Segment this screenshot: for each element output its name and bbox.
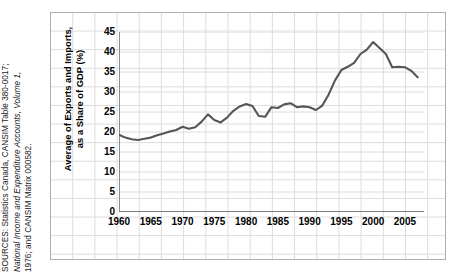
y-axis-tick-labels: 454035302520151050	[89, 32, 115, 212]
source-note-line-2: National Income and Expenditure Accounts…	[12, 72, 24, 272]
x-tick-label: 1960	[101, 216, 137, 228]
y-tick-label: 20	[93, 127, 115, 137]
x-tick-label: 2000	[355, 216, 391, 228]
x-tick-label: 1990	[292, 216, 328, 228]
chart-plot-svg	[119, 32, 424, 212]
x-axis-tick-labels: 1960196519701975198019851990199520002005	[119, 216, 424, 230]
y-tick-label: 35	[93, 67, 115, 77]
x-tick-label: 1965	[133, 216, 169, 228]
y-tick-label: 25	[93, 107, 115, 117]
x-tick-label: 1970	[165, 216, 201, 228]
y-axis-title: Average of Exports and Imports, as a Sha…	[59, 12, 89, 223]
x-tick-label: 1980	[228, 216, 264, 228]
chart-frame: Average of Exports and Imports, as a Sha…	[50, 12, 446, 260]
chart-figure: SOURCES: Statistics Canada, CANSIM Table…	[0, 0, 449, 274]
source-note: SOURCES: Statistics Canada, CANSIM Table…	[0, 0, 48, 274]
y-axis-title-line-2: as a Share of GDP (%)	[74, 50, 86, 148]
y-tick-label: 10	[93, 167, 115, 177]
x-tick-label: 1995	[323, 216, 359, 228]
source-note-line-1: SOURCES: Statistics Canada, CANSIM Table…	[0, 64, 12, 273]
y-tick-label: 15	[93, 147, 115, 157]
x-tick-label: 2005	[387, 216, 423, 228]
y-axis-title-line-1: Average of Exports and Imports,	[62, 27, 74, 171]
x-tick-label: 1975	[196, 216, 232, 228]
x-tick-label: 1985	[260, 216, 296, 228]
source-note-line-3: 1976; and CANSIM Matrix 000582.	[23, 143, 35, 272]
y-tick-label: 5	[93, 187, 115, 197]
y-tick-label: 45	[93, 27, 115, 37]
y-tick-label: 30	[93, 87, 115, 97]
data-series-line	[119, 42, 418, 140]
y-tick-label: 40	[93, 47, 115, 57]
grid-lines	[119, 32, 424, 212]
plot-area	[119, 32, 424, 212]
